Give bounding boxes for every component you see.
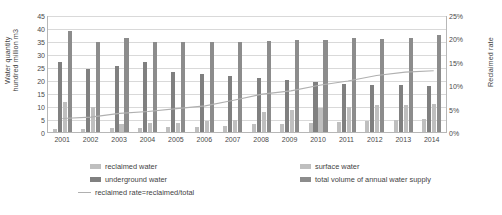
bar-group: 2010 [304,16,332,132]
bar [115,66,119,132]
bar [262,112,266,132]
bar-group: 2002 [76,16,104,132]
y-axis-tick-label: 20 [37,78,45,85]
bar [176,123,180,132]
bar [337,122,341,132]
bar [323,40,327,132]
bar [399,85,403,132]
bar-group: 2008 [247,16,275,132]
bar [252,124,256,132]
bar [124,38,128,132]
x-axis-tick-label: 2014 [424,136,440,144]
x-axis-tick-label: 2007 [225,136,241,144]
bar [58,62,62,132]
x-axis-tick-label: 2008 [253,136,269,144]
bar [153,42,157,132]
bar [119,124,123,132]
bar [228,76,232,132]
x-axis-tick-label: 2011 [339,136,354,144]
bar [200,74,204,132]
bar [290,110,294,132]
y-axis-title: Water quantity hundred million m3 [4,24,20,96]
bar-groups: 2001200220032004200520062007200820092010… [48,16,446,132]
bar-group: 2004 [133,16,161,132]
bar [238,42,242,132]
y-axis-tick-label: 0 [41,130,45,137]
legend-label: underground water [105,175,167,184]
x-axis-tick-label: 2002 [83,136,99,144]
bar [313,82,317,132]
y-axis-tick-label: 45 [37,13,45,20]
legend-item-surface-water[interactable]: surface water [300,162,359,171]
legend-item-underground-water[interactable]: underground water [90,175,167,184]
secondary-y-axis-title: Reclaimed rate [487,26,495,98]
bar-group: 2014 [417,16,445,132]
legend-label: surface water [315,162,359,171]
bar [370,85,374,132]
bar [375,105,379,132]
bar [257,78,261,132]
bar [432,104,436,132]
secondary-y-axis-tick-label: 20% [449,36,463,43]
secondary-y-axis-tick-label: 15% [449,59,463,66]
legend-label: reclaimed rate=reclaimed/total [95,188,194,197]
y-axis-tick-label: 35 [37,39,45,46]
bar-group: 2005 [162,16,190,132]
bar [53,129,57,132]
bar [96,42,100,132]
bar [181,42,185,132]
bar [352,38,356,132]
bar [427,86,431,132]
bar [437,35,441,133]
bar [342,84,346,132]
bar [409,38,413,132]
x-axis-tick-label: 2003 [111,136,127,144]
bar [365,121,369,132]
legend-swatch-icon [90,177,101,182]
bar [110,128,114,132]
bar [422,119,426,132]
bar [171,72,175,132]
y-axis-tick-label: 40 [37,26,45,33]
bar [81,129,85,132]
bar [86,69,90,132]
bar [309,123,313,132]
bar-group: 2009 [275,16,303,132]
legend-label: reclaimed water [105,162,157,171]
bar [233,120,237,132]
chart-legend: reclaimed water underground water reclai… [0,158,502,215]
bar-group: 2013 [389,16,417,132]
bar [195,127,199,132]
bar [347,107,351,132]
y-axis-tick-label: 10 [37,104,45,111]
plot-area: 051015202530354045 0%5%10%15%20%25% 2001… [47,16,447,133]
secondary-y-axis-tick-label: 25% [449,13,463,20]
bar [295,40,299,132]
bar [394,120,398,132]
legend-swatch-icon [90,164,101,169]
x-axis-tick-label: 2001 [54,136,70,144]
bar-group: 2011 [332,16,360,132]
bar [68,31,72,132]
bar [166,127,170,132]
bar [267,41,271,132]
legend-line-icon [78,192,91,193]
legend-item-total-volume[interactable]: total volume of annual water supply [300,175,431,184]
x-axis-tick-label: 2010 [310,136,326,144]
bar [138,128,142,132]
bar [380,39,384,132]
legend-item-reclaimed-water[interactable]: reclaimed water [90,162,157,171]
bar [63,102,67,132]
bar [143,62,147,132]
y-axis-tick-label: 15 [37,91,45,98]
secondary-y-axis-tick-label: 0% [449,130,459,137]
y-axis-tick-label: 25 [37,65,45,72]
x-axis-tick-label: 2009 [282,136,298,144]
bar-group: 2003 [105,16,133,132]
bar [205,121,209,132]
legend-item-reclaimed-rate[interactable]: reclaimed rate=reclaimed/total [78,188,194,197]
bar-group: 2001 [48,16,76,132]
bar [285,80,289,132]
bar [404,105,408,132]
bar [318,108,322,132]
